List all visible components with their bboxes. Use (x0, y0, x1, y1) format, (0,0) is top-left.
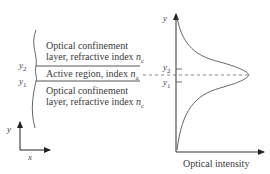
lower-layer-prefix: layer, refractive index (46, 96, 136, 107)
right-y1-tick-label: y1 (163, 77, 171, 90)
layer-edge-curve (32, 30, 36, 128)
lower-layer-label-line2: layer, refractive index nc (46, 96, 144, 112)
intensity-profile-curve (177, 18, 249, 150)
upper-index-subscript: c (141, 57, 144, 65)
intensity-x-axis-label: Optical intensity (183, 158, 249, 169)
active-region-label: Active region, index na (46, 68, 139, 84)
right-y2-tick-label: y2 (163, 62, 171, 75)
upper-layer-prefix: layer, refractive index (46, 51, 136, 62)
lower-layer-label-line1: Optical confinement (46, 85, 128, 96)
upper-layer-label-line2: layer, refractive index nc (46, 51, 144, 67)
upper-layer-label-line1: Optical confinement (46, 40, 128, 51)
small-y-axis-label: y (7, 124, 11, 134)
left-y2-label: y2 (19, 60, 27, 73)
left-y1-label: y1 (19, 76, 27, 89)
lower-index-subscript: c (141, 102, 144, 110)
diagram-canvas (0, 0, 270, 174)
active-region-prefix: Active region, index (46, 68, 130, 79)
intensity-y-axis-label: y (163, 13, 167, 23)
small-x-axis-label: x (28, 152, 32, 162)
active-index-subscript: a (135, 74, 138, 82)
